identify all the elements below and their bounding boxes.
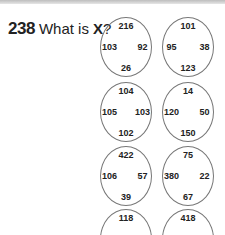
number-circle-3: 104 105 103 102 [100,82,152,142]
circle-right-value: 57 [137,171,147,181]
circle-left-value: 105 [102,107,117,117]
circle-bottom-value: 150 [180,128,195,138]
circle-bottom-value: 123 [180,63,195,73]
circle-right-value: 22 [199,171,209,181]
number-circle-7: 118 972 45 [100,209,152,235]
circle-top-value: 75 [183,150,193,160]
circle-left-value: 103 [102,42,117,52]
circle-right-value: 313 [197,234,212,235]
number-circle-5: 422 106 57 39 [100,146,152,206]
circle-bottom-value: 26 [121,63,131,73]
circle-right-value: 38 [199,42,209,52]
circle-left-value: 513 [164,234,179,235]
circle-top-value: 422 [118,150,133,160]
question-text: What is [39,20,93,37]
number-circle-8: 418 513 313 [162,209,214,235]
circle-bottom-value: 39 [121,192,131,202]
circle-top-value: 418 [180,213,195,223]
circle-right-value: 50 [199,107,209,117]
circle-top-value: 101 [180,21,195,31]
circle-left-value: 106 [102,171,117,181]
circle-bottom-value: 67 [183,192,193,202]
circle-top-value: 104 [118,86,133,96]
circle-left-value: 95 [166,42,176,52]
number-circle-6: 75 380 22 67 [162,146,214,206]
number-circle-4: 14 120 50 150 [162,82,214,142]
circle-right-value: 45 [137,234,147,235]
circle-left-value: 120 [164,107,179,117]
circle-right-value: 92 [137,42,147,52]
question-heading: 238What is X? [8,19,111,39]
question-number: 238 [8,19,35,38]
circle-left-value: 972 [102,234,117,235]
circle-left-value: 380 [164,171,179,181]
circle-top-value: 14 [183,86,193,96]
number-circle-1: 216 103 92 26 [100,17,152,77]
page-top-edge [0,0,225,4]
circle-top-value: 216 [118,21,133,31]
number-circle-2: 101 95 38 123 [162,17,214,77]
circle-top-value: 118 [119,213,134,223]
circle-right-value: 103 [135,107,150,117]
circle-bottom-value: 102 [118,128,133,138]
